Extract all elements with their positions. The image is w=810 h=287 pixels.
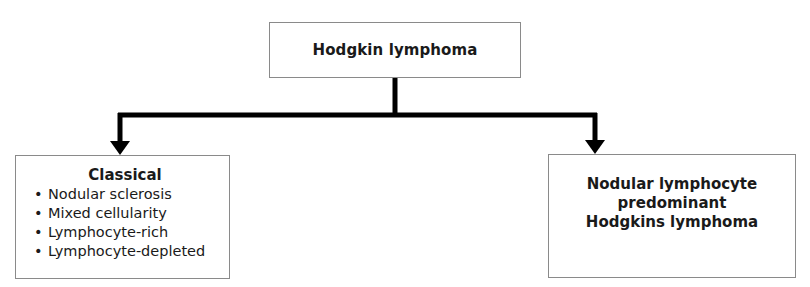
classical-subtype-list: •Nodular sclerosis •Mixed cellularity •L… xyxy=(16,185,229,261)
list-item: •Nodular sclerosis xyxy=(34,185,229,204)
bullet-icon: • xyxy=(34,223,43,242)
nlphl-title-line: Hodgkins lymphoma xyxy=(549,213,795,232)
subtype-label: Mixed cellularity xyxy=(48,205,167,221)
subtype-label: Lymphocyte-depleted xyxy=(48,243,205,259)
root-node-hodgkin-lymphoma: Hodgkin lymphoma xyxy=(269,22,521,78)
node-nodular-lymphocyte-predominant: Nodular lymphocyte predominant Hodgkins … xyxy=(548,154,796,278)
subtype-label: Lymphocyte-rich xyxy=(48,224,168,240)
list-item: •Mixed cellularity xyxy=(34,204,229,223)
nlphl-title-line: Nodular lymphocyte xyxy=(549,175,795,194)
left-arrowhead-icon xyxy=(110,141,130,155)
list-item: •Lymphocyte-depleted xyxy=(34,242,229,261)
nlphl-title-line: predominant xyxy=(549,194,795,213)
subtype-label: Nodular sclerosis xyxy=(48,186,172,202)
bullet-icon: • xyxy=(34,242,43,261)
bullet-icon: • xyxy=(34,185,43,204)
root-node-label: Hodgkin lymphoma xyxy=(313,41,478,59)
node-classical: Classical •Nodular sclerosis •Mixed cell… xyxy=(15,155,230,279)
bullet-icon: • xyxy=(34,204,43,223)
list-item: •Lymphocyte-rich xyxy=(34,223,229,242)
classical-title: Classical xyxy=(21,166,229,185)
right-arrowhead-icon xyxy=(585,140,605,154)
